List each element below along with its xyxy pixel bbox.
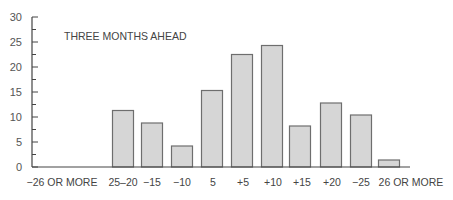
x-tick-label: −15: [143, 176, 161, 188]
y-tick-label: 20: [10, 61, 22, 73]
bar: [321, 103, 342, 167]
y-tick-label: 30: [10, 11, 22, 23]
bar: [202, 91, 223, 168]
x-tick-label: 25–20: [108, 176, 137, 188]
bar: [351, 115, 372, 167]
x-tick-label: +20: [323, 176, 341, 188]
x-tick-label: +5: [237, 176, 249, 188]
bar: [113, 111, 134, 168]
x-axis: −26 OR MORE25–20−15−105+5+10+15+20−2526 …: [27, 167, 444, 188]
chart-title: THREE MONTHS AHEAD: [64, 30, 187, 42]
y-tick-label: 5: [16, 136, 22, 148]
bar: [142, 123, 163, 167]
x-tick-label: 26 OR MORE: [379, 176, 444, 188]
y-tick-label: 10: [10, 111, 22, 123]
bar-chart: 051015202530 −26 OR MORE25–20−15−105+5+1…: [0, 0, 453, 200]
y-tick-label: 25: [10, 36, 22, 48]
x-tick-label: −25: [352, 176, 370, 188]
x-tick-label: 5: [210, 176, 216, 188]
bar: [379, 160, 400, 167]
x-tick-label: +10: [264, 176, 282, 188]
y-tick-label: 0: [16, 161, 22, 173]
x-tick-label: +15: [293, 176, 311, 188]
bar: [232, 55, 253, 168]
bar: [172, 146, 193, 167]
y-axis: 051015202530: [10, 11, 38, 173]
bars: [113, 46, 400, 168]
x-tick-label: −10: [173, 176, 191, 188]
x-tick-label: −26 OR MORE: [27, 176, 98, 188]
y-tick-label: 15: [10, 86, 22, 98]
bar: [262, 46, 283, 168]
bar: [290, 126, 311, 167]
